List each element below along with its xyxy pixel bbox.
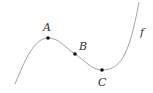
point-a bbox=[46, 36, 50, 40]
label-c: C bbox=[98, 76, 107, 89]
function-graph-diagram: A B C f bbox=[0, 0, 153, 93]
label-a: A bbox=[42, 21, 51, 34]
function-curve bbox=[15, 2, 139, 84]
point-b bbox=[73, 52, 77, 56]
graph-svg: A B C f bbox=[0, 0, 153, 93]
label-f: f bbox=[139, 26, 146, 39]
point-c bbox=[100, 68, 104, 72]
label-b: B bbox=[78, 40, 87, 53]
